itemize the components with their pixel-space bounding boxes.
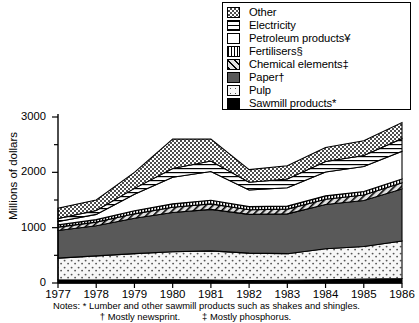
white-swatch-icon — [227, 33, 240, 44]
legend-label: Other — [249, 7, 276, 18]
horizontal-lines-swatch-icon — [227, 20, 240, 31]
legend-label: Pulp — [249, 85, 271, 96]
x-tick-label: 1982 — [229, 288, 269, 300]
y-tick-label: 2000 — [6, 165, 46, 177]
x-tick-label: 1986 — [382, 288, 419, 300]
y-tick-label: 1000 — [6, 221, 46, 233]
legend-item[interactable]: Fertilisers§ — [227, 45, 410, 58]
x-tick-label: 1985 — [344, 288, 384, 300]
legend-item[interactable]: Other — [227, 6, 410, 19]
x-tick-label: 1981 — [191, 288, 231, 300]
area-bands — [58, 123, 402, 283]
x-tick-label: 1983 — [267, 288, 307, 300]
solid-black-swatch-icon — [227, 98, 240, 109]
x-tick-label: 1980 — [153, 288, 193, 300]
legend: Other Electricity Petroleum products¥ Fe… — [222, 2, 411, 110]
legend-label: Paper† — [249, 72, 284, 83]
vertical-lines-swatch-icon — [227, 46, 240, 57]
legend-label: Petroleum products¥ — [249, 33, 350, 44]
legend-label: Fertilisers§ — [249, 46, 303, 57]
x-tick-label: 1977 — [38, 288, 78, 300]
footnote-dagger: † Mostly newsprint. — [100, 311, 180, 322]
footnote-line-2: † Mostly newsprint.‡ Mostly phosphorus. — [0, 311, 413, 322]
footnote-doubledagger: ‡ Mostly phosphorus. — [202, 311, 291, 322]
sparse-dots-swatch-icon — [227, 85, 240, 96]
legend-item[interactable]: Petroleum products¥ — [227, 32, 410, 45]
y-tick-label: 3000 — [6, 110, 46, 122]
x-tick-label: 1984 — [306, 288, 346, 300]
legend-item[interactable]: Paper† — [227, 71, 410, 84]
legend-label: Electricity — [249, 20, 296, 31]
diagonal-hatch-swatch-icon — [227, 59, 240, 70]
x-tick-label: 1978 — [76, 288, 116, 300]
checkered-swatch-icon — [227, 7, 240, 18]
footnote-line-1: Notes: * Lumber and other sawmill produc… — [0, 300, 413, 311]
x-tick-label: 1979 — [114, 288, 154, 300]
legend-item[interactable]: Sawmill products* — [227, 97, 410, 110]
legend-label: Sawmill products* — [249, 98, 336, 109]
y-tick-label: 0 — [6, 276, 46, 288]
legend-label: Chemical elements‡ — [249, 59, 349, 70]
footnotes: Notes: * Lumber and other sawmill produc… — [0, 300, 413, 323]
legend-item[interactable]: Electricity — [227, 19, 410, 32]
solid-gray-swatch-icon — [227, 72, 240, 83]
legend-item[interactable]: Chemical elements‡ — [227, 58, 410, 71]
legend-item[interactable]: Pulp — [227, 84, 410, 97]
